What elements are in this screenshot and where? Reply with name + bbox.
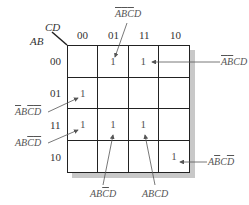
annotation-left-01: ABCD xyxy=(15,106,41,117)
annotation-bottom-left: ABCD xyxy=(90,188,116,199)
annotation-arrows xyxy=(0,0,249,205)
annotation-bottom-right: ABCD xyxy=(142,188,168,199)
annotation-right-bottom: ABCD xyxy=(208,156,234,167)
annotation-left-11: ABCD xyxy=(15,137,41,148)
annotation-right-top: ABCD xyxy=(221,56,247,67)
annotation-top: ABCD xyxy=(115,8,141,19)
corner-diagonal xyxy=(52,32,67,45)
